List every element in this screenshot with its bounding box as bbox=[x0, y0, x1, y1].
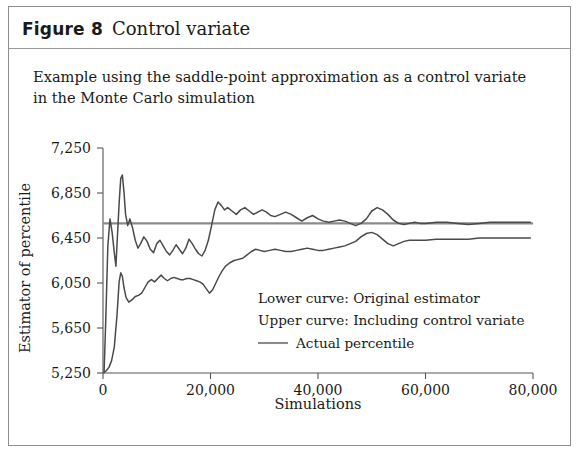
x-axis-ticks bbox=[103, 373, 533, 379]
y-axis-group: 5,2505,6506,0506,4506,8507,250 bbox=[51, 140, 103, 381]
y-axis-tick-label: 6,450 bbox=[51, 230, 91, 246]
x-axis-group: 020,00040,00060,00080,000 bbox=[99, 373, 558, 398]
y-axis-tick-label: 6,850 bbox=[51, 185, 91, 201]
chart-area: 5,2505,6506,0506,4506,8507,250 020,00040… bbox=[0, 0, 581, 452]
y-axis-ticks bbox=[97, 148, 103, 373]
legend-label-actual-percentile: Actual percentile bbox=[295, 335, 414, 351]
y-axis-tick-label: 7,250 bbox=[51, 140, 91, 156]
y-axis-tick-labels: 5,2505,6506,0506,4506,8507,250 bbox=[51, 140, 91, 381]
line-chart: 5,2505,6506,0506,4506,8507,250 020,00040… bbox=[0, 0, 581, 452]
x-axis-tick-label: 0 bbox=[99, 382, 108, 398]
x-axis-title: Simulations bbox=[275, 396, 362, 412]
legend-annotation-lower: Lower curve: Original estimator bbox=[258, 290, 480, 306]
y-axis-tick-label: 6,050 bbox=[51, 275, 91, 291]
figure-container: Figure 8Control variate Example using th… bbox=[0, 0, 581, 452]
x-axis-tick-label: 20,000 bbox=[186, 382, 235, 398]
x-axis-tick-label: 80,000 bbox=[509, 382, 558, 398]
y-axis-tick-label: 5,250 bbox=[51, 365, 91, 381]
y-axis-tick-label: 5,650 bbox=[51, 320, 91, 336]
legend-annotation-upper: Upper curve: Including control variate bbox=[258, 312, 525, 328]
y-axis-title: Estimator of percentile bbox=[17, 183, 33, 353]
chart-legend: Lower curve: Original estimator Upper cu… bbox=[258, 290, 525, 351]
x-axis-tick-label: 60,000 bbox=[401, 382, 450, 398]
